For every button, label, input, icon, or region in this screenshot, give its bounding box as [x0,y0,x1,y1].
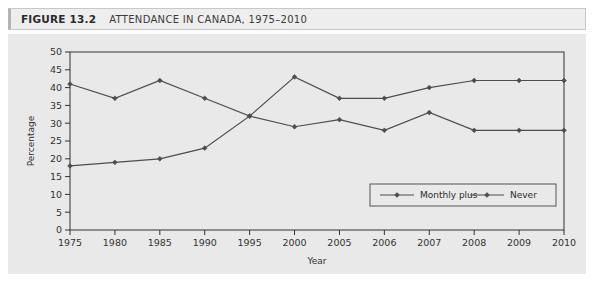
figure-container: FIGURE 13.2 ATTENDANCE IN CANADA, 1975–2… [0,0,603,282]
x-axis-title: Year [306,256,326,266]
y-axis-title: Percentage [26,115,36,166]
data-point [202,96,207,101]
y-tick-label: 45 [50,64,62,75]
x-tick-label: 1975 [58,237,82,248]
y-tick-label: 5 [56,207,62,218]
x-tick-label: 2008 [462,237,486,248]
series-line-0 [70,113,564,166]
y-tick-label: 30 [50,118,62,129]
x-tick-label: 2005 [327,237,351,248]
series-line-1 [70,77,564,116]
x-tick-label: 1985 [148,237,172,248]
figure-title-bar: FIGURE 13.2 ATTENDANCE IN CANADA, 1975–2… [8,8,586,30]
data-point [157,156,162,161]
data-point [517,128,522,133]
y-tick-label: 50 [50,46,62,57]
x-tick-label: 2007 [417,237,441,248]
figure-number-label: FIGURE 13.2 [21,13,96,25]
data-point [427,110,432,115]
data-point [292,124,297,129]
y-tick-label: 0 [56,224,62,235]
data-point [562,78,567,83]
data-point [113,96,118,101]
y-tick-label: 40 [50,82,62,93]
x-tick-label: 1980 [103,237,127,248]
data-point [68,82,73,87]
legend-label-0: Monthly plus [420,190,478,200]
data-point [562,128,567,133]
data-point [68,164,73,169]
legend-label-1: Never [510,190,537,200]
data-point [472,128,477,133]
data-point [472,78,477,83]
chart-panel: 05101520253035404550Percentage1975198019… [8,34,586,274]
y-tick-label: 10 [50,189,62,200]
x-tick-label: 1995 [238,237,262,248]
data-point [382,96,387,101]
x-tick-label: 1990 [193,237,217,248]
data-point [382,128,387,133]
y-tick-label: 25 [50,135,62,146]
data-point [337,96,342,101]
x-tick-label: 2010 [552,237,576,248]
data-point [157,78,162,83]
x-tick-label: 2000 [282,237,306,248]
y-tick-label: 35 [50,100,62,111]
y-tick-label: 20 [50,153,62,164]
figure-title-text: ATTENDANCE IN CANADA, 1975–2010 [109,14,307,25]
data-point [337,117,342,122]
x-tick-label: 2009 [507,237,531,248]
data-point [427,85,432,90]
line-chart: 05101520253035404550Percentage1975198019… [8,34,586,274]
data-point [113,160,118,165]
data-point [517,78,522,83]
x-tick-label: 2006 [372,237,396,248]
y-tick-label: 15 [50,171,62,182]
